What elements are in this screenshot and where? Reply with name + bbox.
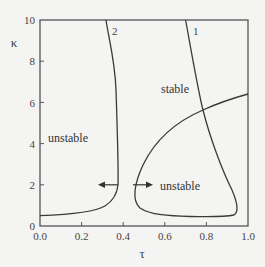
plot-frame [40, 20, 248, 226]
x-axis: 0.0 0.2 0.4 0.6 0.8 1.0 τ [33, 222, 255, 261]
y-axis-label: κ [11, 35, 18, 50]
x-tick-0.6: 0.6 [158, 230, 172, 242]
label-stable: stable [161, 82, 189, 96]
x-tick-0.2: 0.2 [75, 230, 89, 242]
y-tick-4: 4 [30, 138, 36, 150]
y-tick-6: 6 [30, 97, 36, 109]
x-tick-0.4: 0.4 [116, 230, 130, 242]
curve-2 [40, 20, 118, 216]
x-tick-0.0: 0.0 [33, 230, 47, 242]
x-axis-label: τ [139, 246, 144, 261]
label-curve-1: 1 [193, 25, 199, 37]
label-curve-2: 2 [112, 25, 118, 37]
label-unstable-left: unstable [48, 131, 88, 145]
closed-boundary [135, 94, 248, 217]
arrow-left-icon [98, 182, 118, 189]
y-axis: 0 2 4 6 8 10 κ [11, 14, 44, 232]
stability-chart: 0 2 4 6 8 10 κ 0.0 0.2 0.4 0.6 0.8 1.0 τ… [0, 0, 265, 267]
x-tick-1.0: 1.0 [241, 230, 255, 242]
y-tick-10: 10 [24, 14, 36, 26]
y-tick-8: 8 [30, 55, 36, 67]
x-tick-0.8: 0.8 [200, 230, 214, 242]
y-tick-2: 2 [30, 179, 36, 191]
label-unstable-right: unstable [160, 179, 200, 193]
